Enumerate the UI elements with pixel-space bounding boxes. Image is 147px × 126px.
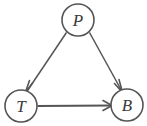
- node-t-label: T: [16, 97, 27, 116]
- node-b-label: B: [122, 96, 133, 115]
- node-b[interactable]: B: [111, 89, 143, 121]
- edge-t-to-b[interactable]: [38, 101, 113, 111]
- diagram-canvas: P T B: [0, 0, 147, 126]
- edge-t-to-b-line: [38, 106, 112, 107]
- node-p-label: P: [72, 11, 83, 30]
- directed-graph: P T B: [0, 0, 147, 126]
- node-p[interactable]: P: [62, 4, 94, 36]
- node-t[interactable]: T: [5, 90, 37, 122]
- edge-p-to-t[interactable]: [25, 33, 67, 94]
- edge-p-to-b[interactable]: [90, 33, 123, 93]
- edge-p-to-b-line: [90, 33, 122, 91]
